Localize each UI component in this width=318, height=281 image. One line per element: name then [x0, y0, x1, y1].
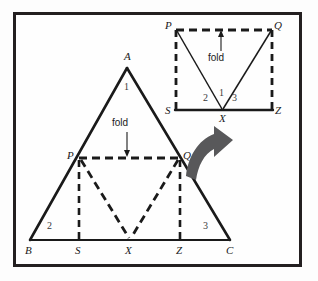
label-region-2-square: 2	[203, 93, 208, 103]
fold-line-qx	[131, 160, 178, 238]
label-vertex-z-main: Z	[176, 245, 182, 256]
label-vertex-q-square: Q	[274, 20, 282, 31]
label-vertex-x-main: X	[125, 245, 132, 256]
square-line-qx	[223, 31, 271, 109]
curved-arrow-icon	[186, 126, 233, 180]
folded-square-group	[175, 30, 273, 110]
label-vertex-p-main: P	[67, 150, 74, 161]
label-region-3-square: 3	[232, 93, 237, 103]
label-vertex-p-square: P	[165, 20, 172, 31]
label-region-2-main: 2	[47, 221, 52, 231]
label-region-1-square: 1	[219, 88, 224, 98]
label-vertex-s-main: S	[75, 245, 81, 256]
label-vertex-q-main: Q	[183, 150, 191, 161]
label-vertex-c: C	[226, 245, 233, 256]
square-fold-arrow-icon	[218, 30, 224, 51]
diagram-page: A 1 fold P Q 2 3 B S X Z C P Q fold 2 1 …	[0, 0, 318, 281]
label-fold-square: fold	[208, 53, 224, 63]
square-line-px	[177, 31, 222, 109]
main-fold-arrow-icon	[124, 132, 130, 157]
label-vertex-s-square: S	[165, 105, 171, 116]
label-region-1-main: 1	[124, 82, 129, 92]
label-vertex-x-square: X	[219, 113, 226, 124]
label-vertex-z-square: Z	[275, 105, 281, 116]
diagram-canvas	[0, 0, 318, 281]
main-triangle-fold-lines	[79, 158, 180, 239]
label-vertex-b: B	[25, 245, 32, 256]
label-region-3-main: 3	[203, 221, 208, 231]
label-apex-a: A	[124, 51, 131, 62]
label-fold-main: fold	[112, 118, 128, 128]
fold-line-px	[81, 160, 129, 238]
